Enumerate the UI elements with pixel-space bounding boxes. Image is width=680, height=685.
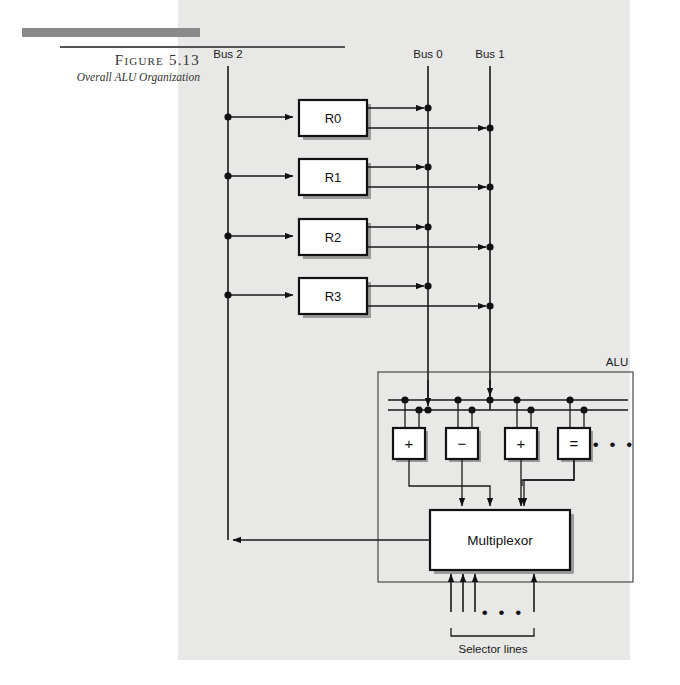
- bus-2-label: Bus 2: [213, 48, 242, 60]
- multiplexor-group: Multiplexor: [430, 510, 574, 574]
- bus2-junction-r1: [224, 172, 231, 179]
- register-r1-group: R1: [224, 159, 493, 199]
- alu-unit-multiply-group: +: [505, 396, 540, 506]
- bus0-junction-r1: [424, 163, 431, 170]
- alu-units-ellipsis: • • •: [593, 435, 635, 454]
- alu-unit-subtract-symbol: −: [458, 435, 467, 452]
- rail-upper-junction-bus1: [486, 396, 493, 403]
- bus1-junction-r0: [486, 124, 493, 131]
- compare-output-seg: [522, 459, 574, 486]
- multiplexor-label: Multiplexor: [467, 533, 533, 548]
- alu-unit-subtract-group: −: [446, 396, 481, 506]
- bus2-junction-r3: [224, 291, 231, 298]
- bus1-junction-r3: [486, 302, 493, 309]
- register-r2-label: R2: [325, 230, 342, 245]
- bus-0-label: Bus 0: [413, 48, 442, 60]
- alu-label: ALU: [606, 356, 628, 368]
- selector-brace: [451, 628, 534, 636]
- alu-unit-compare-symbol: =: [570, 435, 579, 452]
- bus2-junction-r0: [224, 113, 231, 120]
- add-output-path: [409, 459, 490, 506]
- register-r0-label: R0: [325, 111, 342, 126]
- selector-ellipsis: • • •: [482, 603, 524, 622]
- selector-lines-label: Selector lines: [458, 643, 527, 655]
- bus1-junction-r2: [486, 243, 493, 250]
- alu-unit-add-symbol: +: [405, 435, 414, 452]
- bus0-junction-r2: [424, 223, 431, 230]
- alu-unit-multiply-symbol: +: [517, 435, 526, 452]
- bus0-junction-r0: [424, 104, 431, 111]
- register-r2-group: R2: [224, 219, 493, 259]
- bus2-junction-r2: [224, 232, 231, 239]
- bus-1-label: Bus 1: [475, 48, 504, 60]
- register-r3-label: R3: [325, 289, 342, 304]
- register-r3-group: R3: [224, 278, 493, 318]
- figure-page: Figure 5.13 Overall ALU Organization Bus…: [0, 0, 680, 685]
- register-r0-group: R0: [224, 100, 493, 140]
- alu-diagram: Bus 2 Bus 0 Bus 1 R0 R1: [0, 0, 680, 685]
- rail-lower-junction-bus0: [424, 406, 431, 413]
- register-r1-label: R1: [325, 170, 342, 185]
- bus1-junction-r1: [486, 183, 493, 190]
- bus0-junction-r3: [424, 282, 431, 289]
- compare-output-path: [524, 459, 574, 480]
